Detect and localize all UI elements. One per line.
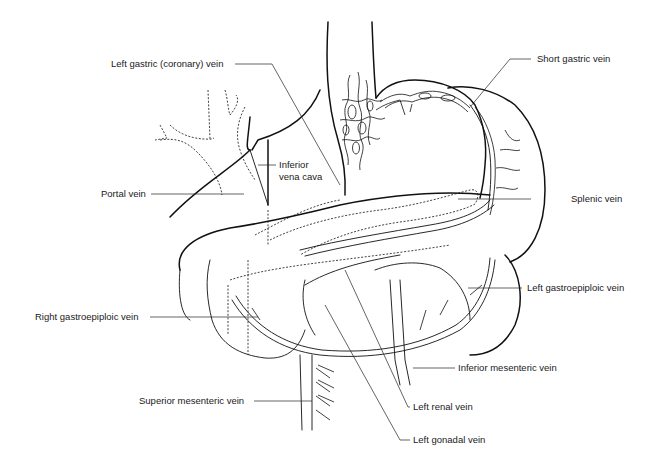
label-splenic-vein: Splenic vein [571, 193, 622, 204]
spleen [448, 87, 545, 262]
label-inferior-vena-cava-1: Inferior [279, 159, 309, 170]
anatomical-diagram: Left gastric (coronary) vein Short gastr… [0, 0, 658, 470]
colon [179, 193, 520, 358]
stomach [376, 80, 486, 198]
gastroepiploic-arcade [232, 258, 495, 356]
label-superior-mesenteric-vein: Superior mesenteric vein [139, 395, 244, 406]
esophagus [327, 22, 376, 195]
label-inferior-mesenteric-vein: Inferior mesenteric vein [458, 362, 557, 373]
label-right-gastroepiploic-vein: Right gastroepiploic vein [35, 311, 139, 322]
label-inferior-vena-cava-2: vena cava [279, 171, 323, 182]
inferior-vena-cava [258, 140, 276, 245]
label-left-gonadal-vein: Left gonadal vein [413, 434, 485, 445]
leader-lines [150, 59, 531, 440]
label-short-gastric-vein: Short gastric vein [537, 53, 610, 64]
superior-mesenteric-vein [300, 355, 334, 430]
retroperitoneal-veins [305, 255, 410, 385]
esophageal-varices [340, 72, 400, 170]
liver-outline [155, 90, 320, 217]
label-left-renal-vein: Left renal vein [413, 401, 473, 412]
label-left-gastroepiploic-vein: Left gastroepiploic vein [527, 282, 624, 293]
label-portal-vein: Portal vein [101, 188, 146, 199]
label-left-gastric-vein: Left gastric (coronary) vein [111, 58, 223, 69]
